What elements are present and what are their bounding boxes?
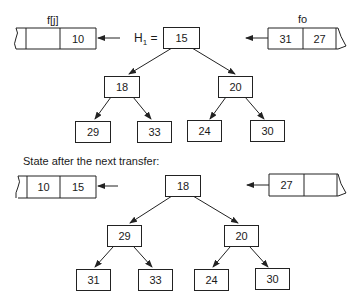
top-tree-left-left: 29 xyxy=(75,121,111,143)
heap-label-equals: = xyxy=(150,31,157,45)
top-left-array-cell-1: 10 xyxy=(60,28,96,49)
bottom-tree-left: 29 xyxy=(107,225,142,247)
top-tree-left: 18 xyxy=(104,76,140,98)
top-tree-root: 15 xyxy=(163,27,200,49)
top-left-array-cell-0 xyxy=(26,28,60,49)
heap-label-h: H xyxy=(134,31,143,45)
bottom-right-array-cell-0: 27 xyxy=(269,174,304,196)
bottom-right-array-cell-1 xyxy=(304,174,337,196)
top-right-array-cell-0: 31 xyxy=(268,28,303,49)
heap-label-subscript: 1 xyxy=(143,38,147,47)
top-tree-right-left: 24 xyxy=(187,120,222,142)
top-tree-right-right: 30 xyxy=(250,120,285,142)
bottom-tree-right: 20 xyxy=(224,225,259,247)
top-right-array-label: fo xyxy=(298,13,307,25)
bottom-tree-right-left: 24 xyxy=(194,269,229,291)
top-right-array-cell-1: 27 xyxy=(303,28,336,49)
bottom-tree-right-right: 30 xyxy=(255,268,290,290)
top-tree-left-right: 33 xyxy=(137,121,172,143)
top-tree-right: 20 xyxy=(218,76,253,98)
caption: State after the next transfer: xyxy=(23,155,159,167)
bottom-tree-left-right: 33 xyxy=(138,269,173,291)
bottom-left-array-cell-0: 10 xyxy=(27,176,60,198)
bottom-tree-left-left: 31 xyxy=(76,269,111,291)
bottom-left-array-cell-1: 15 xyxy=(60,176,96,198)
heap-merge-diagram: f[j] 10 fo 31 27 H1 = 15 18 20 29 33 24 … xyxy=(0,0,363,295)
heap-label: H1 = xyxy=(134,32,157,49)
bottom-tree-root: 18 xyxy=(165,175,201,197)
top-left-array-label: f[j] xyxy=(47,14,59,26)
